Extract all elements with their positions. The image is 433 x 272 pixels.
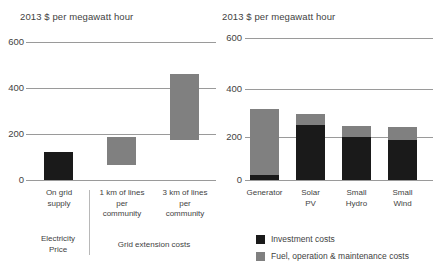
- right-ytick-200: 200: [216, 131, 242, 142]
- bar-1km-lines: [107, 137, 136, 165]
- xlabel-3km-lines: 3 km of lines per community: [155, 188, 215, 220]
- left-chart-panel: 2013 $ per megawatt hour 600 400 200 0 O…: [0, 0, 216, 272]
- group-separator: [89, 190, 90, 255]
- dual-bar-chart-figure: 2013 $ per megawatt hour 600 400 200 0 O…: [0, 0, 433, 272]
- bar-generator-investment: [250, 175, 279, 180]
- left-ytick-600: 600: [0, 36, 24, 47]
- xlabel-small-wind: Small Wind: [373, 188, 432, 209]
- legend-label-fuel-om: Fuel, operation & maintenance costs: [271, 251, 409, 261]
- bar-small-hydro-investment: [342, 137, 371, 180]
- left-ytick-400: 400: [0, 82, 24, 93]
- legend-swatch-investment: [256, 235, 265, 244]
- bar-generator-fuel-om: [250, 109, 279, 175]
- bar-on-grid-supply: [44, 152, 73, 180]
- bar-solar-pv-investment: [296, 125, 325, 180]
- bar-small-wind-investment: [388, 140, 417, 180]
- legend-item-fuel-om-costs: Fuel, operation & maintenance costs: [256, 251, 409, 261]
- legend-item-investment-costs: Investment costs: [256, 234, 335, 244]
- right-gridline-0: [245, 180, 433, 181]
- xlabel-on-grid-supply: On grid supply: [29, 188, 89, 209]
- right-gridline-400: [245, 89, 433, 90]
- grouplabel-grid-extension-costs: Grid extension costs: [94, 240, 214, 251]
- left-chart-axis-title: 2013 $ per megawatt hour: [20, 11, 133, 22]
- xlabel-1km-lines: 1 km of lines per community: [92, 188, 152, 220]
- bar-small-hydro-fuel-om: [342, 126, 371, 137]
- bar-solar-pv-fuel-om: [296, 114, 325, 125]
- right-chart-panel: 2013 $ per megawatt hour 600 400 200 0 G…: [216, 0, 433, 272]
- left-gridline-0: [26, 180, 216, 181]
- legend-swatch-fuel-om: [256, 252, 265, 261]
- right-gridline-600: [245, 38, 433, 39]
- right-ytick-600: 600: [216, 32, 242, 43]
- left-gridline-600: [26, 42, 216, 43]
- left-ytick-200: 200: [0, 128, 24, 139]
- bar-small-wind-fuel-om: [388, 127, 417, 140]
- right-chart-axis-title: 2013 $ per megawatt hour: [222, 11, 335, 22]
- legend-label-investment: Investment costs: [271, 234, 335, 244]
- right-ytick-400: 400: [216, 83, 242, 94]
- grouplabel-electricity-price: Electricity Price: [29, 234, 87, 255]
- right-ytick-0: 0: [216, 174, 242, 185]
- bar-3km-lines: [170, 74, 199, 140]
- left-ytick-0: 0: [0, 174, 24, 185]
